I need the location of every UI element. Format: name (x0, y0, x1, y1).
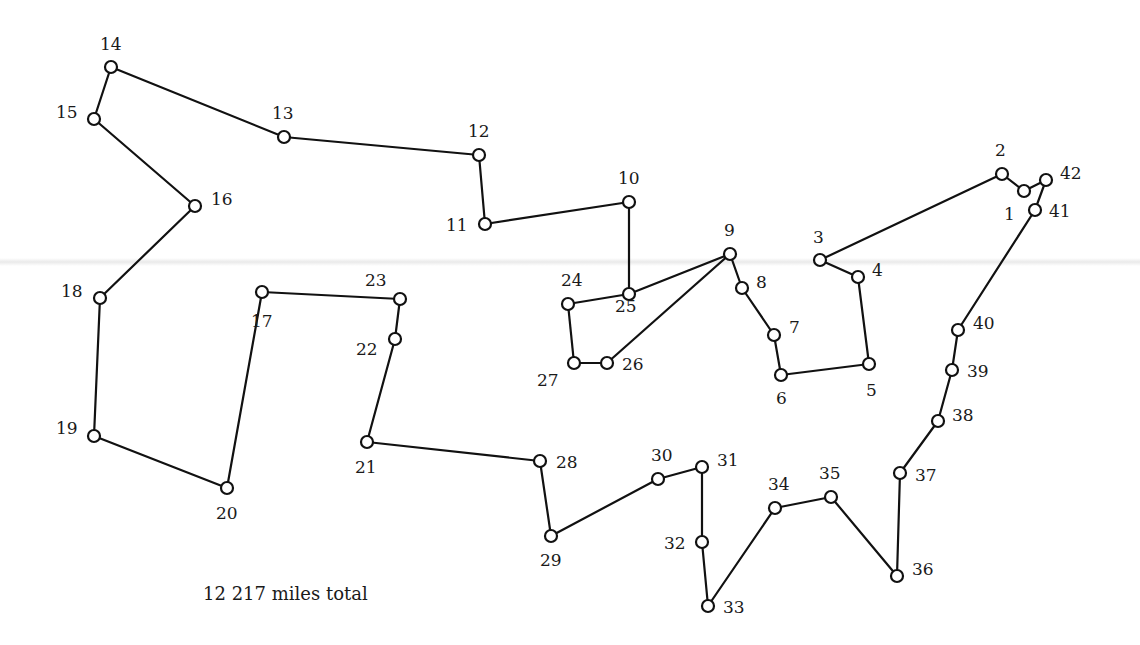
city-node-14 (105, 61, 117, 73)
city-label-38: 38 (952, 405, 974, 425)
city-label-32: 32 (664, 533, 686, 553)
city-node-23 (394, 293, 406, 305)
city-label-18: 18 (61, 281, 83, 301)
city-node-40 (952, 324, 964, 336)
city-label-12: 12 (468, 121, 490, 141)
total-distance-caption: 12 217 miles total (203, 583, 368, 604)
city-label-23: 23 (365, 270, 387, 290)
city-node-9 (724, 248, 736, 260)
city-node-26 (601, 357, 613, 369)
city-node-16 (189, 200, 201, 212)
city-label-33: 33 (723, 597, 745, 617)
city-node-2 (996, 168, 1008, 180)
city-node-12 (473, 149, 485, 161)
city-label-8: 8 (756, 272, 767, 292)
city-label-36: 36 (912, 559, 934, 579)
city-node-29 (545, 530, 557, 542)
city-node-32 (696, 536, 708, 548)
city-label-30: 30 (651, 445, 673, 465)
city-node-34 (769, 502, 781, 514)
tour-diagram: 1234567891011121314151617181920212223242… (0, 0, 1140, 645)
city-label-4: 4 (872, 260, 883, 280)
city-label-39: 39 (967, 361, 989, 381)
city-node-20 (221, 482, 233, 494)
city-label-27: 27 (537, 370, 559, 390)
tour-edges (94, 67, 1046, 606)
city-node-37 (894, 467, 906, 479)
city-label-21: 21 (355, 457, 377, 477)
city-node-31 (696, 461, 708, 473)
city-label-7: 7 (789, 317, 800, 337)
city-label-17: 17 (251, 311, 273, 331)
city-label-1: 1 (1004, 204, 1015, 224)
city-label-5: 5 (866, 380, 877, 400)
city-label-16: 16 (211, 189, 233, 209)
city-label-13: 13 (272, 103, 294, 123)
city-label-10: 10 (618, 168, 640, 188)
city-node-33 (702, 600, 714, 612)
city-label-24: 24 (561, 270, 583, 290)
city-label-37: 37 (915, 465, 937, 485)
city-label-11: 11 (446, 215, 468, 235)
city-label-20: 20 (216, 503, 238, 523)
city-label-34: 34 (768, 474, 790, 494)
city-labels: 1234567891011121314151617181920212223242… (56, 34, 1082, 617)
tour-path (94, 67, 1046, 606)
city-node-18 (94, 292, 106, 304)
city-node-13 (278, 131, 290, 143)
city-node-11 (479, 218, 491, 230)
city-node-24 (562, 298, 574, 310)
city-node-10 (623, 196, 635, 208)
city-label-22: 22 (356, 339, 378, 359)
city-label-41: 41 (1049, 201, 1071, 221)
city-node-1 (1018, 185, 1030, 197)
city-node-28 (534, 455, 546, 467)
city-nodes (88, 61, 1052, 612)
city-node-39 (946, 364, 958, 376)
city-label-42: 42 (1060, 163, 1082, 183)
city-label-25: 25 (615, 296, 637, 316)
city-node-30 (652, 473, 664, 485)
city-label-6: 6 (776, 388, 787, 408)
city-label-19: 19 (56, 418, 78, 438)
city-node-42 (1040, 174, 1052, 186)
city-label-3: 3 (813, 227, 824, 247)
city-label-14: 14 (100, 34, 122, 54)
city-node-8 (736, 282, 748, 294)
city-node-22 (389, 333, 401, 345)
city-node-3 (814, 254, 826, 266)
city-label-26: 26 (622, 354, 644, 374)
city-node-17 (256, 286, 268, 298)
tour-edge (568, 304, 574, 363)
city-node-15 (88, 113, 100, 125)
city-label-29: 29 (540, 550, 562, 570)
city-node-6 (775, 369, 787, 381)
city-node-27 (568, 357, 580, 369)
city-label-40: 40 (973, 313, 995, 333)
city-node-19 (88, 430, 100, 442)
city-node-36 (891, 570, 903, 582)
city-label-28: 28 (556, 452, 578, 472)
city-node-41 (1029, 204, 1041, 216)
city-label-15: 15 (56, 102, 78, 122)
city-label-9: 9 (724, 220, 735, 240)
city-node-4 (852, 271, 864, 283)
city-node-35 (825, 491, 837, 503)
city-node-5 (863, 358, 875, 370)
city-label-31: 31 (717, 450, 739, 470)
city-label-2: 2 (995, 140, 1006, 160)
city-node-21 (361, 436, 373, 448)
city-node-38 (932, 415, 944, 427)
city-label-35: 35 (819, 463, 841, 483)
city-node-7 (768, 329, 780, 341)
